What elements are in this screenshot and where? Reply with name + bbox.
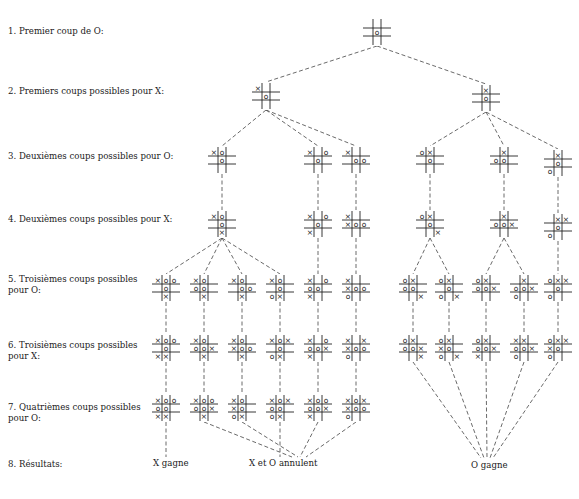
x-mark-icon: ×: [231, 276, 237, 285]
o-mark-icon: o: [514, 292, 519, 301]
tree-edge: [300, 422, 318, 457]
tic-tac-toe-board: ×oo×: [490, 210, 518, 238]
tic-tac-toe-board: o×××oo: [544, 334, 572, 362]
tic-tac-toe-board: ×o: [472, 84, 500, 112]
tic-tac-toe-board: ×o×oo×: [228, 334, 256, 362]
o-mark-icon: o: [556, 344, 561, 353]
tic-tac-toe-board: o×oo××: [399, 334, 427, 362]
o-mark-icon: o: [172, 396, 177, 405]
tree-edge: [266, 110, 356, 146]
x-mark-icon: ×: [323, 404, 329, 413]
o-mark-icon: o: [354, 284, 359, 293]
o-mark-icon: o: [484, 94, 489, 103]
o-mark-icon: o: [346, 412, 351, 421]
o-mark-icon: o: [522, 344, 527, 353]
o-mark-icon: o: [556, 159, 561, 168]
x-mark-icon: ×: [345, 220, 351, 229]
x-mark-icon: ×: [255, 84, 261, 93]
x-mark-icon: ×: [435, 228, 441, 237]
tree-edge: [486, 112, 558, 149]
tic-tac-toe-board: ×ooo×: [266, 274, 294, 302]
tic-tac-toe-board: o××oo: [544, 274, 572, 302]
x-mark-icon: ×: [211, 212, 217, 221]
x-mark-icon: ×: [307, 292, 313, 301]
tree-edge: [430, 112, 486, 146]
result-o-wins: O gagne: [471, 460, 508, 470]
tree-edge: [413, 362, 481, 458]
tree-boards: o×o×o×oo×oo×ooo×o×oo×oo×oo××oo×××ooo×o××…: [152, 18, 572, 422]
tree-edge: [242, 422, 298, 457]
tree-edge: [449, 362, 484, 458]
o-mark-icon: o: [428, 220, 433, 229]
o-mark-icon: o: [420, 148, 425, 157]
o-mark-icon: o: [232, 412, 237, 421]
x-mark-icon: ×: [209, 404, 215, 413]
o-mark-icon: o: [556, 284, 561, 293]
x-mark-icon: ×: [155, 336, 161, 345]
o-mark-icon: o: [548, 231, 553, 240]
o-mark-icon: o: [522, 284, 527, 293]
tree-edge: [266, 46, 377, 82]
o-mark-icon: o: [439, 352, 444, 361]
x-mark-icon: ×: [454, 352, 460, 361]
x-mark-icon: ×: [345, 148, 351, 157]
tic-tac-toe-board: o×o: [416, 146, 444, 174]
o-mark-icon: o: [264, 92, 269, 101]
o-mark-icon: o: [354, 344, 359, 353]
x-mark-icon: ×: [277, 412, 283, 421]
o-mark-icon: o: [194, 284, 199, 293]
o-mark-icon: o: [362, 220, 367, 229]
tree-edge: [377, 46, 486, 84]
x-mark-icon: ×: [231, 344, 237, 353]
o-mark-icon: o: [362, 156, 367, 165]
o-mark-icon: o: [354, 156, 359, 165]
x-mark-icon: ×: [269, 276, 275, 285]
tic-tac-toe-board: o×oo××: [472, 334, 500, 362]
o-mark-icon: o: [375, 28, 380, 37]
tree-edge: [222, 238, 242, 274]
x-mark-icon: ×: [563, 276, 569, 285]
o-mark-icon: o: [439, 276, 444, 285]
o-mark-icon: o: [411, 344, 416, 353]
tree-edge: [486, 238, 504, 274]
x-mark-icon: ×: [529, 344, 535, 353]
o-mark-icon: o: [172, 276, 177, 285]
o-mark-icon: o: [248, 284, 253, 293]
tree-edge: [222, 238, 280, 274]
tree-edge: [306, 422, 356, 457]
x-mark-icon: ×: [201, 352, 207, 361]
tic-tac-toe-board: ×oo: [342, 146, 370, 174]
x-mark-icon: ×: [155, 412, 161, 421]
x-mark-icon: ×: [285, 396, 291, 405]
tree-edge: [166, 238, 222, 274]
x-mark-icon: ×: [475, 352, 481, 361]
x-mark-icon: ×: [529, 284, 535, 293]
tic-tac-toe-board: ××oo: [544, 213, 572, 241]
tic-tac-toe-board: o×oo×: [472, 274, 500, 302]
tic-tac-toe-board: o×o×: [416, 210, 444, 238]
tree-edge: [504, 238, 524, 274]
o-mark-icon: o: [362, 284, 367, 293]
tree-edge: [486, 112, 504, 146]
tic-tac-toe-board: ×ooo×: [228, 274, 256, 302]
x-mark-icon: ×: [418, 352, 424, 361]
x-mark-icon: ×: [209, 344, 215, 353]
tic-tac-toe-board: ×ooo××: [152, 334, 180, 362]
o-mark-icon: o: [270, 292, 275, 301]
x-mark-icon: ×: [454, 292, 460, 301]
o-mark-icon: o: [324, 276, 329, 285]
tic-tac-toe-board: ×oo×: [208, 210, 236, 238]
x-mark-icon: ×: [563, 336, 569, 345]
tic-tac-toe-board: ×oo: [208, 146, 236, 174]
o-mark-icon: o: [484, 284, 489, 293]
tic-tac-toe-board: ×××ooo: [342, 334, 370, 362]
o-mark-icon: o: [354, 404, 359, 413]
o-mark-icon: o: [194, 344, 199, 353]
x-mark-icon: ×: [307, 412, 313, 421]
tic-tac-toe-board: o: [363, 18, 391, 46]
o-mark-icon: o: [354, 220, 359, 229]
o-mark-icon: o: [316, 220, 321, 229]
tic-tac-toe-board: ×o×oo×: [228, 394, 256, 422]
x-mark-icon: ×: [307, 212, 313, 221]
tic-tac-toe-board: ×oooo××: [304, 394, 332, 422]
